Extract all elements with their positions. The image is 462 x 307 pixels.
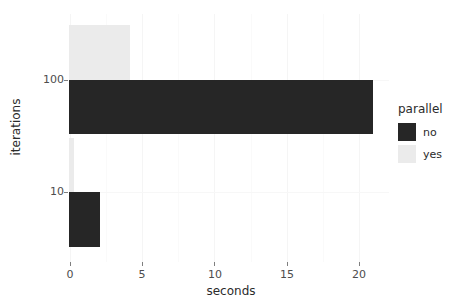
y-axis: 100 10 (28, 0, 64, 307)
x-tick-label-10: 10 (195, 269, 235, 280)
bar-iterations-100-parallel-yes (69, 25, 130, 80)
gridline-y-10 (69, 192, 389, 193)
gridline-x-15 (287, 14, 288, 262)
legend-swatch-no (398, 123, 416, 141)
y-tick-mark-100 (64, 80, 68, 81)
bar-iterations-100-parallel-no (69, 80, 373, 134)
x-tick-mark-10 (214, 262, 215, 266)
x-tick-mark-0 (70, 262, 71, 266)
x-tick-mark-5 (142, 262, 143, 266)
gridline-x-minor-17_5 (323, 14, 324, 262)
legend-item-yes[interactable]: yes (398, 143, 462, 165)
y-tick-label-100: 100 (43, 74, 64, 85)
x-tick-label-15: 15 (267, 269, 307, 280)
gridline-x-5 (142, 14, 143, 262)
bar-chart: 100 10 0 5 10 15 20 seconds iterations p… (0, 0, 462, 307)
legend: parallel no yes (398, 102, 462, 165)
legend-label-no: no (423, 126, 437, 139)
y-axis-title: iterations (9, 67, 23, 187)
gridline-x-10 (214, 14, 215, 262)
plot-panel (69, 14, 389, 262)
legend-item-no[interactable]: no (398, 121, 462, 143)
bar-iterations-10-parallel-no (69, 192, 100, 247)
x-tick-mark-20 (359, 262, 360, 266)
x-axis-title: seconds (0, 284, 462, 298)
y-tick-label-10: 10 (50, 186, 64, 197)
legend-title: parallel (398, 102, 462, 116)
gridline-x-minor-12_5 (251, 14, 252, 262)
x-tick-mark-15 (287, 262, 288, 266)
gridline-x-minor-7_5 (178, 14, 179, 262)
legend-swatch-yes (398, 145, 416, 163)
x-tick-label-0: 0 (50, 269, 90, 280)
gridline-x-20 (359, 14, 360, 262)
y-tick-mark-10 (64, 192, 68, 193)
legend-label-yes: yes (423, 148, 442, 161)
x-tick-label-20: 20 (339, 269, 379, 280)
x-tick-label-5: 5 (122, 269, 162, 280)
bar-iterations-10-parallel-yes (69, 138, 74, 192)
